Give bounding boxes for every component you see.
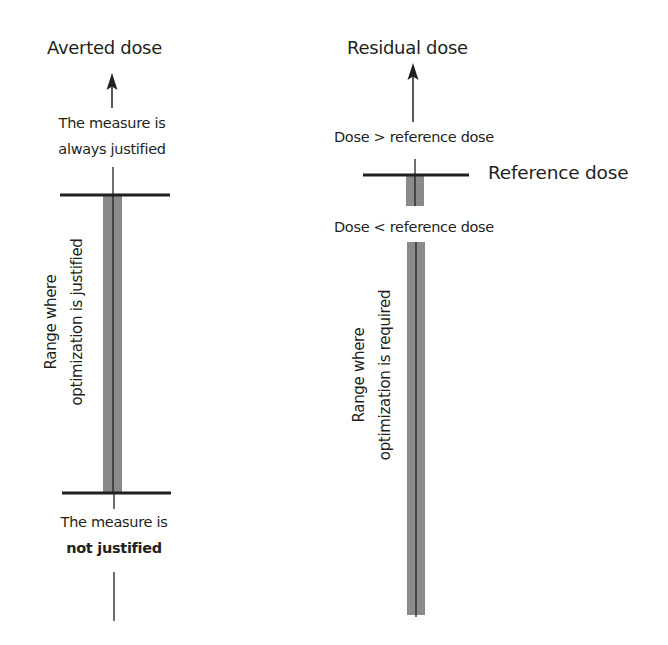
right-above-note: Dose > reference dose [316, 124, 512, 150]
left-bottom-note: The measure is not justified [46, 509, 182, 561]
right-title: Residual dose [347, 39, 468, 57]
right-range-label: Range where optimization is required [346, 290, 398, 461]
reference-dose-label: Reference dose [488, 164, 628, 183]
left-bottom-note-line2: not justified [46, 535, 182, 561]
left-top-note: The measure is always justified [44, 110, 180, 162]
left-top-note-line1: The measure is [44, 110, 180, 136]
left-bottom-note-line1: The measure is [46, 509, 182, 535]
left-top-note-line2: always justified [44, 136, 180, 162]
left-range-label: Range where optimization is justified [38, 238, 90, 405]
left-title: Averted dose [47, 39, 162, 57]
left-range-label-line1: Range where [38, 238, 64, 405]
right-range-label-line2: optimization is required [372, 290, 398, 461]
right-below-note: Dose < reference dose [316, 214, 512, 240]
right-range-label-line1: Range where [346, 290, 372, 461]
left-range-label-line2: optimization is justified [64, 238, 90, 405]
